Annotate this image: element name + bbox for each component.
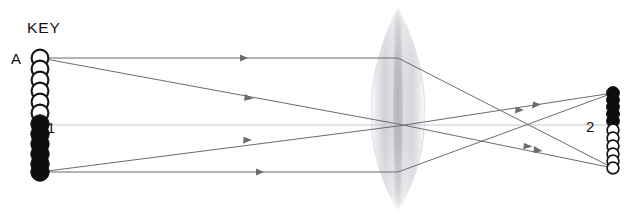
image-bead-column	[607, 87, 620, 174]
object-bead-column	[31, 50, 49, 182]
object-top-label-a: A	[11, 51, 21, 66]
ray-top-oblique	[40, 58, 613, 168]
ray-bottom-oblique	[40, 93, 613, 172]
object-filled-bead	[31, 163, 49, 181]
ray-arrowhead	[243, 137, 252, 144]
image-label-2: 2	[586, 119, 594, 134]
ray-arrowhead	[256, 169, 264, 176]
converging-lens	[364, 0, 434, 216]
key-label: KEY	[27, 20, 61, 36]
ray-bundle	[40, 55, 613, 176]
ray-bottom-parallel	[40, 93, 613, 175]
lens-edge-fade	[364, 0, 434, 216]
ray-arrowhead	[523, 143, 532, 149]
object-label-1: 1	[47, 121, 55, 136]
image-open-bead	[607, 162, 619, 174]
ray-arrowhead	[240, 55, 248, 62]
optics-diagram-svg	[0, 0, 638, 216]
ray-diagram-canvas: KEY A 1 2	[0, 0, 638, 216]
